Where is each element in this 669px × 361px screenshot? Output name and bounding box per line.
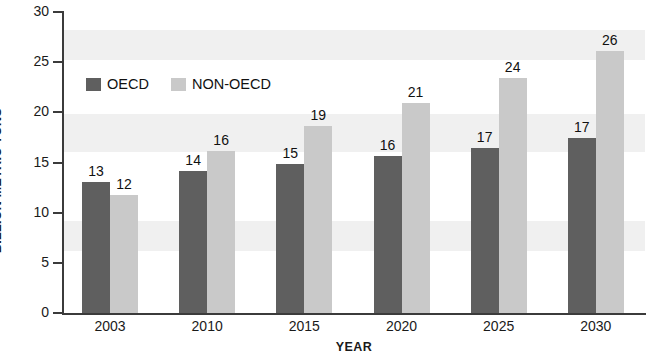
bar-oecd-2025[interactable]: [471, 148, 499, 313]
legend-item-oecd: OECD: [86, 76, 149, 92]
y-tick-label: 20: [1, 103, 49, 119]
bar-value-label: 16: [197, 132, 245, 148]
y-axis-line: [62, 11, 64, 314]
bar-value-label: 26: [586, 32, 634, 48]
legend-label-non-oecd: NON-OECD: [192, 76, 271, 92]
bar-chart: BILLION METRIC TONS 13121416151916211724…: [0, 0, 669, 361]
y-tick-mark: [53, 162, 62, 164]
x-axis-title: YEAR: [62, 340, 646, 354]
bar-oecd-2015[interactable]: [276, 164, 304, 313]
x-tick-label-2015: 2015: [264, 318, 344, 334]
y-tick-mark: [53, 262, 62, 264]
y-tick-label: 5: [1, 254, 49, 270]
y-tick-mark: [53, 212, 62, 214]
bar-non-oecd-2025[interactable]: [499, 78, 527, 313]
bar-non-oecd-2015[interactable]: [304, 126, 332, 313]
bar-non-oecd-2003[interactable]: [110, 195, 138, 313]
bar-oecd-2020[interactable]: [374, 156, 402, 313]
bar-value-label: 24: [489, 59, 537, 75]
bar-oecd-2003[interactable]: [82, 182, 110, 313]
chart-legend: OECD NON-OECD: [86, 76, 271, 92]
x-tick-label-2025: 2025: [459, 318, 539, 334]
x-tick-label-2020: 2020: [362, 318, 442, 334]
bar-non-oecd-2030[interactable]: [596, 51, 624, 313]
bar-oecd-2030[interactable]: [568, 138, 596, 313]
x-tick-label-2030: 2030: [556, 318, 636, 334]
y-tick-label: 30: [1, 3, 49, 19]
y-tick-mark: [53, 11, 62, 13]
y-tick-label: 10: [1, 204, 49, 220]
bar-non-oecd-2010[interactable]: [207, 151, 235, 313]
y-tick-mark: [53, 61, 62, 63]
x-tick-label-2003: 2003: [70, 318, 150, 334]
bar-non-oecd-2020[interactable]: [402, 103, 430, 313]
legend-swatch-non-oecd-icon: [171, 78, 186, 91]
legend-item-non-oecd: NON-OECD: [171, 76, 271, 92]
legend-swatch-oecd-icon: [86, 78, 101, 91]
bar-oecd-2010[interactable]: [179, 171, 207, 313]
bar-value-label: 12: [100, 176, 148, 192]
legend-label-oecd: OECD: [107, 76, 149, 92]
y-tick-label: 25: [1, 53, 49, 69]
background-band: [62, 221, 645, 251]
y-tick-label: 0: [1, 304, 49, 320]
y-tick-label: 15: [1, 154, 49, 170]
x-tick-label-2010: 2010: [167, 318, 247, 334]
plot-area: 131214161519162117241726: [62, 12, 645, 313]
background-band: [62, 30, 645, 60]
y-tick-mark: [53, 111, 62, 113]
bar-value-label: 21: [392, 84, 440, 100]
y-tick-mark: [53, 312, 62, 314]
x-axis-line: [62, 313, 646, 315]
bar-value-label: 19: [294, 107, 342, 123]
y-axis-title-text: BILLION METRIC TONS: [0, 108, 4, 253]
